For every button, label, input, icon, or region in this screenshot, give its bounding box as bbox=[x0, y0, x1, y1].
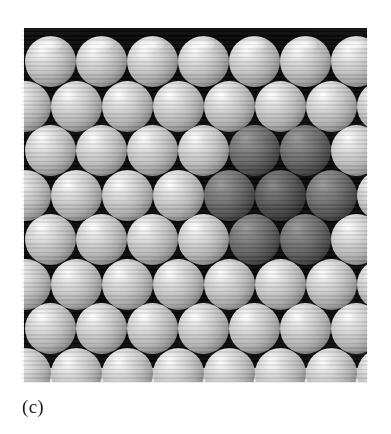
panel-edge-right bbox=[367, 28, 369, 384]
matrix-sphere bbox=[204, 81, 255, 132]
panel-edge-bottom bbox=[22, 382, 368, 384]
matrix-sphere bbox=[280, 303, 331, 354]
matrix-sphere bbox=[76, 125, 127, 176]
matrix-sphere bbox=[22, 170, 51, 221]
matrix-sphere bbox=[127, 36, 178, 87]
impurity-sphere bbox=[306, 170, 357, 221]
matrix-sphere bbox=[255, 81, 306, 132]
matrix-sphere bbox=[153, 259, 204, 310]
matrix-sphere bbox=[51, 81, 102, 132]
sphere-packing-panel bbox=[22, 28, 368, 384]
matrix-sphere bbox=[306, 259, 357, 310]
matrix-sphere bbox=[331, 36, 368, 87]
matrix-sphere bbox=[178, 125, 229, 176]
impurity-sphere bbox=[255, 170, 306, 221]
matrix-sphere bbox=[22, 81, 51, 132]
matrix-sphere bbox=[178, 214, 229, 265]
impurity-sphere bbox=[280, 214, 331, 265]
impurity-sphere bbox=[280, 125, 331, 176]
matrix-sphere bbox=[76, 303, 127, 354]
sphere-lattice bbox=[22, 28, 368, 384]
matrix-sphere bbox=[331, 125, 368, 176]
matrix-sphere bbox=[306, 81, 357, 132]
panel-edge-left bbox=[22, 28, 24, 384]
matrix-sphere bbox=[255, 259, 306, 310]
matrix-sphere bbox=[204, 259, 255, 310]
impurity-sphere bbox=[229, 214, 280, 265]
impurity-sphere bbox=[204, 170, 255, 221]
matrix-sphere bbox=[331, 214, 368, 265]
matrix-sphere bbox=[102, 259, 153, 310]
matrix-sphere bbox=[25, 214, 76, 265]
matrix-sphere bbox=[127, 214, 178, 265]
matrix-sphere bbox=[102, 81, 153, 132]
matrix-sphere bbox=[178, 303, 229, 354]
impurity-sphere bbox=[229, 125, 280, 176]
matrix-sphere bbox=[102, 170, 153, 221]
matrix-sphere bbox=[229, 36, 280, 87]
matrix-sphere bbox=[76, 36, 127, 87]
figure-container: (c) bbox=[0, 0, 391, 434]
matrix-sphere bbox=[153, 81, 204, 132]
matrix-sphere bbox=[51, 259, 102, 310]
matrix-sphere bbox=[127, 303, 178, 354]
figure-caption: (c) bbox=[22, 396, 44, 418]
matrix-sphere bbox=[51, 170, 102, 221]
matrix-sphere bbox=[76, 214, 127, 265]
matrix-sphere bbox=[331, 303, 368, 354]
matrix-sphere bbox=[229, 303, 280, 354]
matrix-sphere bbox=[22, 259, 51, 310]
matrix-sphere bbox=[178, 36, 229, 87]
matrix-sphere bbox=[280, 36, 331, 87]
matrix-sphere bbox=[25, 125, 76, 176]
matrix-sphere bbox=[25, 36, 76, 87]
matrix-sphere bbox=[153, 170, 204, 221]
matrix-sphere bbox=[25, 303, 76, 354]
matrix-sphere bbox=[127, 125, 178, 176]
